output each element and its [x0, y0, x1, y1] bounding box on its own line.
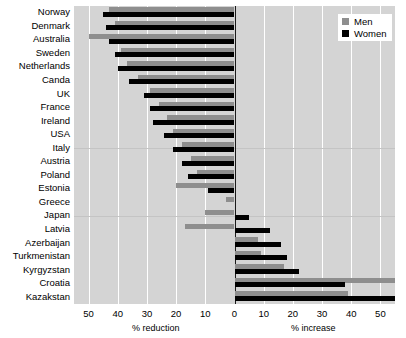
- y-axis-label-uk: UK: [57, 89, 70, 99]
- bar-france-women: [150, 106, 235, 111]
- legend-swatch-men-icon: [342, 18, 349, 25]
- bar-latvia-women: [235, 228, 270, 233]
- chart-container: NorwayDenmarkAustraliaSwedenNetherlandsC…: [0, 0, 406, 338]
- y-axis-label-japan: Japan: [44, 210, 70, 220]
- bar-japan-women: [235, 215, 250, 220]
- y-axis-label-croatia: Croatia: [39, 278, 70, 288]
- y-axis-label-netherlands: Netherlands: [19, 61, 70, 71]
- gridline-vertical: [89, 6, 90, 304]
- x-axis: 504030201001020304050% reduction% increa…: [74, 304, 395, 338]
- y-axis-label-australia: Australia: [33, 34, 70, 44]
- bar-canda-women: [129, 79, 234, 84]
- x-axis-tick-30-neg: 30: [135, 308, 159, 319]
- bar-turkmenistan-women: [235, 255, 288, 260]
- x-axis-tick-0-zero: 0: [223, 308, 247, 319]
- gridline-vertical: [293, 6, 294, 304]
- y-axis-label-norway: Norway: [38, 7, 70, 17]
- y-axis-label-poland: Poland: [40, 170, 70, 180]
- bar-australia-women: [109, 39, 234, 44]
- x-axis-tick-20-neg: 20: [164, 308, 188, 319]
- bar-kyrgyzstan-women: [235, 269, 299, 274]
- bar-usa-women: [164, 133, 234, 138]
- bar-greece-men: [226, 197, 235, 202]
- x-axis-tick-10-neg: 10: [193, 308, 217, 319]
- y-axis-label-denmark: Denmark: [31, 21, 70, 31]
- bar-croatia-women: [235, 282, 346, 287]
- y-axis-label-ireland: Ireland: [41, 116, 70, 126]
- x-axis-tick-50-neg: 50: [77, 308, 101, 319]
- x-axis-tick-10-pos: 10: [252, 308, 276, 319]
- x-axis-tick-30-pos: 30: [310, 308, 334, 319]
- y-axis-label-sweden: Sweden: [36, 48, 70, 58]
- bar-estonia-women: [208, 188, 234, 193]
- y-axis-label-italy: Italy: [53, 143, 70, 153]
- y-axis-label-france: France: [40, 102, 70, 112]
- plot-area: [74, 6, 395, 304]
- legend-item-women: Women: [342, 29, 387, 38]
- y-axis-label-estonia: Estonia: [38, 183, 70, 193]
- gridline-vertical: [118, 6, 119, 304]
- bar-azerbaijan-women: [235, 242, 282, 247]
- legend-swatch-women-icon: [342, 30, 349, 37]
- x-axis-tick-50-pos: 50: [368, 308, 392, 319]
- y-axis-label-austria: Austria: [40, 156, 70, 166]
- x-axis-tick-40-pos: 40: [339, 308, 363, 319]
- bar-austria-women: [182, 161, 235, 166]
- legend-label-men: Men: [354, 17, 372, 26]
- x-axis-title-reduction: % reduction: [111, 323, 201, 333]
- legend-label-women: Women: [354, 29, 387, 38]
- y-axis-label-kyrgyzstan: Kyrgyzstan: [23, 265, 70, 275]
- y-axis-label-canda: Canda: [42, 75, 70, 85]
- bar-ireland-women: [153, 120, 235, 125]
- y-axis-label-greece: Greece: [39, 197, 70, 207]
- bar-kazakstan-women: [235, 296, 396, 301]
- bar-uk-women: [144, 93, 234, 98]
- bar-netherlands-women: [118, 66, 235, 71]
- bar-latvia-men: [185, 224, 235, 229]
- bar-italy-women: [173, 147, 234, 152]
- bar-sweden-women: [115, 52, 235, 57]
- bar-norway-women: [103, 12, 234, 17]
- x-axis-tick-40-neg: 40: [106, 308, 130, 319]
- y-axis-label-kazakstan: Kazakstan: [26, 292, 70, 302]
- bar-poland-women: [188, 174, 235, 179]
- gridline-vertical: [351, 6, 352, 304]
- legend: MenWomen: [338, 14, 392, 41]
- y-axis-label-usa: USA: [50, 129, 70, 139]
- y-axis-label-azerbaijan: Azerbaijan: [25, 238, 70, 248]
- legend-item-men: Men: [342, 17, 387, 26]
- bar-japan-men: [205, 210, 234, 215]
- gridline-vertical: [380, 6, 381, 304]
- x-axis-title-increase: % increase: [268, 323, 358, 333]
- bar-denmark-women: [106, 25, 234, 30]
- x-axis-tick-20-pos: 20: [281, 308, 305, 319]
- y-axis-label-latvia: Latvia: [45, 224, 70, 234]
- gridline-vertical: [322, 6, 323, 304]
- y-axis-labels: NorwayDenmarkAustraliaSwedenNetherlandsC…: [0, 6, 70, 304]
- y-axis-label-turkmenistan: Turkmenistan: [13, 251, 70, 261]
